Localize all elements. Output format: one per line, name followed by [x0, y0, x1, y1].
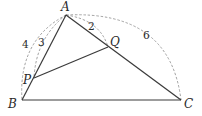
label-C: C [184, 97, 193, 111]
label-A: A [60, 0, 70, 14]
segment-PQ [34, 47, 108, 78]
length-AC: 6 [143, 29, 150, 41]
length-AQ: 2 [88, 20, 95, 32]
triangle-diagram: A B C P Q 4 3 2 6 [0, 0, 202, 116]
length-AP: 3 [38, 36, 45, 48]
segment-AB [22, 15, 66, 100]
length-AB: 4 [22, 38, 29, 50]
label-Q: Q [110, 35, 120, 49]
label-P: P [22, 73, 32, 87]
label-B: B [7, 97, 17, 111]
